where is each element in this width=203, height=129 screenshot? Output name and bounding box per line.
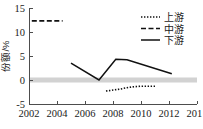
y-tick-label: 15 bbox=[15, 3, 26, 14]
series-line-0 bbox=[106, 86, 155, 91]
chart-container: 151050-52002200420062008201020122014份额/%… bbox=[0, 0, 202, 129]
y-axis-title: 份额/% bbox=[0, 40, 11, 72]
x-tick-label: 2004 bbox=[47, 108, 69, 119]
x-tick-label: 2002 bbox=[19, 108, 40, 119]
zero-reference-band bbox=[29, 78, 197, 83]
x-tick-label: 2012 bbox=[159, 108, 180, 119]
legend-label-0: 上游 bbox=[164, 11, 184, 23]
legend-label-1: 中游 bbox=[164, 23, 184, 35]
legend-label-2: 下游 bbox=[164, 34, 184, 46]
y-tick-label: 0 bbox=[20, 75, 25, 86]
line-chart: 151050-52002200420062008201020122014份额/%… bbox=[0, 0, 202, 129]
x-tick-label: 2014 bbox=[187, 108, 203, 119]
y-tick-label: 10 bbox=[15, 27, 26, 38]
y-tick-label: 5 bbox=[20, 51, 25, 62]
x-tick-label: 2006 bbox=[75, 108, 96, 119]
x-tick-label: 2008 bbox=[103, 108, 124, 119]
series-line-2 bbox=[71, 59, 172, 80]
x-tick-label: 2010 bbox=[131, 108, 152, 119]
